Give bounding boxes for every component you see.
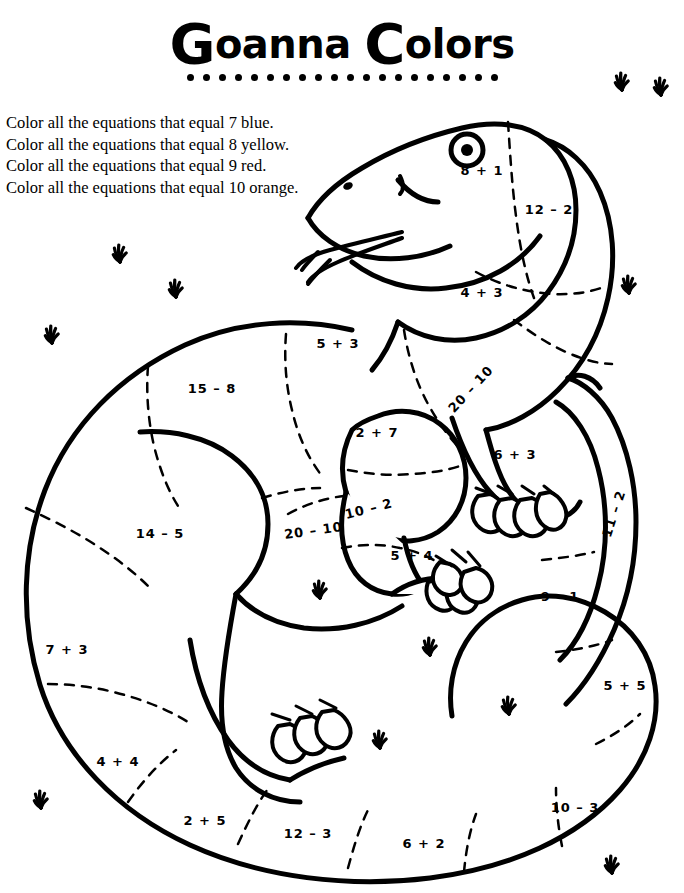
equation-neck-lower: 4 + 3 (460, 285, 503, 300)
grass-tuft-icon (615, 73, 628, 90)
equation-right-arm: 6 + 3 (493, 447, 536, 462)
equation-head-cheek: 8 + 1 (460, 163, 503, 178)
neck-lower-edge (372, 322, 398, 370)
equation-tail-mid: 9 – 1 (541, 589, 580, 604)
equation-shoulder: 20 – 10 (445, 362, 496, 415)
equation-belly-left: 14 – 5 (136, 526, 185, 541)
equation-belly-bot-2: 2 + 5 (183, 813, 226, 828)
equation-belly-bot-l: 4 + 4 (96, 754, 139, 769)
equation-belly-bot-3: 12 – 3 (284, 826, 333, 841)
grass-tuft-icon (169, 280, 182, 297)
equation-back-mid: 5 + 3 (316, 336, 359, 351)
equation-tail-bot: 10 – 3 (551, 800, 600, 815)
grass-tuft-icon (622, 276, 635, 293)
equation-belly-bot-4: 6 + 2 (402, 836, 445, 851)
eye-pupil (461, 144, 473, 156)
grass-tuft-icon (34, 791, 47, 808)
front-claws (427, 562, 493, 613)
worksheet-page: Goanna Colors Color all the equations th… (0, 0, 684, 893)
equation-tail-lower: 5 + 5 (603, 678, 646, 693)
grass-tuft-icon (45, 326, 58, 343)
equation-flank-left: 7 + 3 (45, 642, 88, 657)
grass-tuft-icon (654, 78, 667, 95)
equation-foreleg-up: 2 + 7 (355, 425, 398, 440)
right-foot-claws (472, 492, 566, 536)
grass-tuft-icon (605, 856, 618, 873)
goanna-illustration: 8 + 112 – 24 + 35 + 315 – 820 – 102 + 71… (0, 0, 684, 893)
equation-neck-upper: 12 – 2 (525, 202, 574, 217)
equation-back-left: 15 – 8 (188, 381, 237, 396)
head-outline (308, 124, 576, 340)
grass-tuft-icon (113, 245, 126, 262)
equation-front-foot: 5 + 4 (390, 548, 433, 563)
